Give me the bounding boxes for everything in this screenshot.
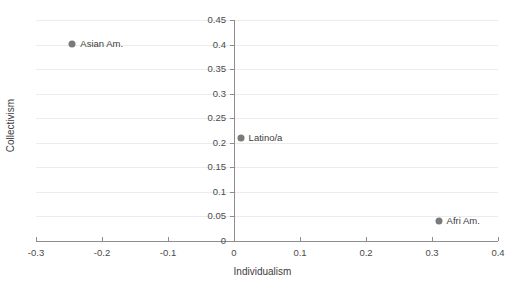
x-tick-label: -0.1 bbox=[160, 248, 176, 258]
y-tick bbox=[230, 143, 234, 144]
y-tick-label: 0.25 bbox=[192, 113, 226, 123]
y-tick-label: 0.4 bbox=[192, 40, 226, 50]
y-tick bbox=[230, 118, 234, 119]
x-axis-line bbox=[36, 241, 498, 242]
y-axis-line bbox=[234, 20, 235, 241]
gridline-horizontal bbox=[36, 94, 498, 95]
x-tick bbox=[168, 237, 169, 241]
y-tick-label: 0.05 bbox=[192, 211, 226, 221]
y-tick-label: 0.15 bbox=[192, 162, 226, 172]
plot-area: -0.3-0.2-0.100.10.20.30.400.050.10.150.2… bbox=[0, 0, 525, 298]
x-tick bbox=[36, 237, 37, 241]
y-tick bbox=[230, 167, 234, 168]
y-tick-label: 0.3 bbox=[192, 89, 226, 99]
data-point-label: Latino/a bbox=[249, 133, 283, 143]
x-tick bbox=[300, 237, 301, 241]
x-tick-label: 0.3 bbox=[425, 248, 438, 258]
gridline-horizontal bbox=[36, 143, 498, 144]
data-point-marker[interactable] bbox=[237, 134, 244, 141]
x-tick bbox=[234, 237, 235, 241]
gridline-horizontal bbox=[36, 20, 498, 21]
x-tick bbox=[366, 237, 367, 241]
y-tick-label: 0.35 bbox=[192, 64, 226, 74]
y-tick-label: 0.1 bbox=[192, 187, 226, 197]
y-axis-title: Collectivism bbox=[2, 0, 20, 250]
data-point-label: Afri Am. bbox=[447, 216, 480, 226]
x-tick-label: 0.1 bbox=[293, 248, 306, 258]
x-axis-title: Individualism bbox=[0, 266, 525, 277]
y-tick bbox=[230, 69, 234, 70]
y-tick-label: 0 bbox=[192, 236, 226, 246]
y-tick-label: 0.2 bbox=[192, 138, 226, 148]
y-tick bbox=[230, 45, 234, 46]
y-tick bbox=[230, 192, 234, 193]
y-tick bbox=[230, 216, 234, 217]
y-tick bbox=[230, 20, 234, 21]
y-axis-title-text: Collectivism bbox=[6, 98, 17, 151]
gridline-horizontal bbox=[36, 167, 498, 168]
gridline-horizontal bbox=[36, 216, 498, 217]
data-point-marker[interactable] bbox=[435, 217, 442, 224]
x-tick-label: -0.3 bbox=[28, 248, 44, 258]
scatter-plot-figure: -0.3-0.2-0.100.10.20.30.400.050.10.150.2… bbox=[0, 0, 525, 298]
gridline-horizontal bbox=[36, 118, 498, 119]
y-tick-label: 0.45 bbox=[192, 15, 226, 25]
x-tick bbox=[498, 237, 499, 241]
x-tick bbox=[102, 237, 103, 241]
y-tick bbox=[230, 94, 234, 95]
x-tick-label: 0.4 bbox=[491, 248, 504, 258]
gridline-horizontal bbox=[36, 69, 498, 70]
x-tick-label: 0.2 bbox=[359, 248, 372, 258]
data-point-marker[interactable] bbox=[69, 40, 76, 47]
data-point-label: Asian Am. bbox=[80, 39, 123, 49]
x-tick bbox=[432, 237, 433, 241]
x-tick-label: 0 bbox=[231, 248, 236, 258]
x-tick-label: -0.2 bbox=[94, 248, 110, 258]
gridline-horizontal bbox=[36, 192, 498, 193]
